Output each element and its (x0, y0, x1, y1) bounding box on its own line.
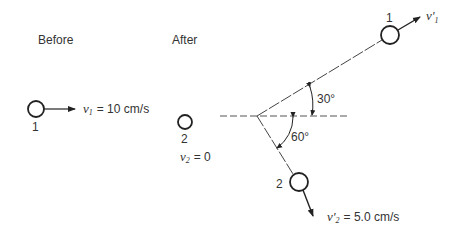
ball-1-before (28, 101, 44, 117)
before-ball-1-group: 1 v1= 10 cm/s (28, 101, 149, 134)
ball-2-path (257, 116, 293, 174)
v1-label: v1= 10 cm/s (83, 101, 149, 117)
angle-30-label: 30° (317, 92, 335, 106)
angle-arc-30 (310, 87, 313, 115)
ball-2-final-label: 2 (276, 177, 283, 191)
collision-diagram: Before After 1 v1= 10 cm/s 2 v2= 0 1 v'1… (0, 0, 459, 233)
velocity-arrow-v1-prime (398, 17, 420, 30)
velocity-arrow-v2-prime (303, 190, 313, 216)
ball-2-final (290, 173, 308, 191)
ball-1-before-label: 1 (32, 120, 39, 134)
angle-60-label: 60° (291, 130, 309, 144)
after-heading: After (172, 33, 197, 47)
v2-label: v2= 0 (180, 149, 211, 165)
ball-2-initial-group: 2 v2= 0 (178, 115, 211, 165)
ball-1-final-label: 1 (386, 11, 393, 25)
ball-2-initial (178, 115, 192, 129)
ball-1-final (381, 26, 399, 44)
before-heading: Before (38, 33, 74, 47)
v1-prime-label: v'1 (426, 8, 439, 25)
v2-prime-label: v'2= 5.0 cm/s (327, 209, 399, 225)
ball-2-initial-label: 2 (181, 132, 188, 146)
